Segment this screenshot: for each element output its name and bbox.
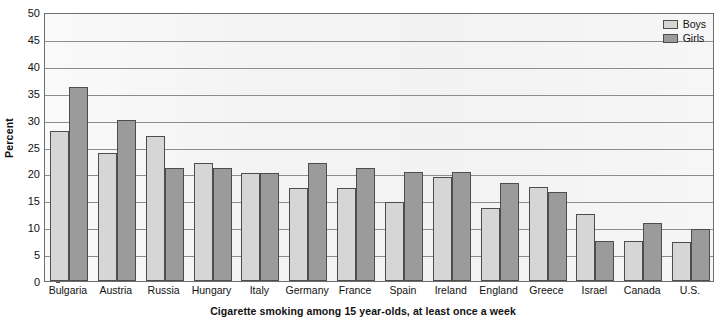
legend-swatch-girls-icon xyxy=(663,34,678,43)
x-axis-tick-germany: Germany xyxy=(283,284,331,297)
legend-label-girls: Girls xyxy=(683,32,705,44)
y-axis-tick-5: 5 xyxy=(16,250,40,261)
plot-area: Boys Girls xyxy=(44,13,714,282)
y-axis-tick-50: 50 xyxy=(16,8,40,19)
bar-england-boys xyxy=(481,208,500,281)
y-axis-tick-25: 25 xyxy=(16,142,40,153)
bar-france-girls xyxy=(356,168,375,281)
bar-israel-boys xyxy=(576,214,595,281)
y-axis-tick-15: 15 xyxy=(16,196,40,207)
x-axis-tick-russia: Russia xyxy=(140,284,188,297)
bar-canada-boys xyxy=(624,241,643,281)
bar-greece-girls xyxy=(548,192,567,281)
y-axis-tick-10: 10 xyxy=(16,223,40,234)
x-axis-tick-israel: Israel xyxy=(570,284,618,297)
bar-austria-boys xyxy=(98,153,117,281)
y-axis-title: Percent xyxy=(2,118,16,158)
bar-ireland-girls xyxy=(452,172,471,281)
bar-bulgaria-girls xyxy=(69,87,88,281)
legend-item-boys: Boys xyxy=(663,18,706,30)
bar-hungary-boys xyxy=(194,163,213,281)
bar-spain-girls xyxy=(404,172,423,281)
legend-swatch-boys-icon xyxy=(663,20,678,29)
chart-caption: Cigarette smoking among 15 year-olds, at… xyxy=(0,305,726,317)
bar-israel-girls xyxy=(595,241,614,281)
x-axis-tick-u-s-: U.S. xyxy=(666,284,714,297)
x-axis-tick-england: England xyxy=(475,284,523,297)
bar-germany-girls xyxy=(308,163,327,281)
legend-label-boys: Boys xyxy=(683,18,706,30)
y-axis-tick-labels: 50454035302520151050 xyxy=(16,0,40,326)
y-axis-tick-35: 35 xyxy=(16,88,40,99)
bar-hungary-girls xyxy=(213,168,232,281)
y-axis-tick-0: 0 xyxy=(16,277,40,288)
y-axis-tick-mark xyxy=(56,282,60,283)
x-axis-tick-spain: Spain xyxy=(379,284,427,297)
y-axis-tick-45: 45 xyxy=(16,34,40,45)
x-axis-tick-italy: Italy xyxy=(235,284,283,297)
bar-england-girls xyxy=(500,183,519,281)
bar-france-boys xyxy=(337,188,356,281)
bar-russia-boys xyxy=(146,136,165,281)
bar-spain-boys xyxy=(385,202,404,281)
x-axis-tick-labels: BulgariaAustriaRussiaHungaryItalyGermany… xyxy=(44,284,714,300)
y-axis-tick-40: 40 xyxy=(16,61,40,72)
x-axis-tick-canada: Canada xyxy=(618,284,666,297)
bar-italy-girls xyxy=(260,173,279,281)
x-axis-tick-bulgaria: Bulgaria xyxy=(44,284,92,297)
bar-canada-girls xyxy=(643,223,662,281)
bar-u-s--girls xyxy=(691,229,710,281)
x-axis-tick-greece: Greece xyxy=(523,284,571,297)
bar-ireland-boys xyxy=(433,177,452,281)
bar-russia-girls xyxy=(165,168,184,281)
y-axis-tick-30: 30 xyxy=(16,115,40,126)
bar-italy-boys xyxy=(241,173,260,281)
bar-chart-figure: Percent 50454035302520151050 Boys Girls … xyxy=(0,0,726,326)
x-axis-tick-hungary: Hungary xyxy=(188,284,236,297)
bar-austria-girls xyxy=(117,120,136,281)
bar-bulgaria-boys xyxy=(50,131,69,281)
y-axis-tick-20: 20 xyxy=(16,169,40,180)
legend-item-girls: Girls xyxy=(663,32,706,44)
bar-germany-boys xyxy=(289,188,308,281)
bar-series-container xyxy=(45,14,713,281)
legend: Boys Girls xyxy=(663,18,706,46)
bar-greece-boys xyxy=(529,187,548,281)
x-axis-tick-austria: Austria xyxy=(92,284,140,297)
x-axis-tick-ireland: Ireland xyxy=(427,284,475,297)
x-axis-tick-france: France xyxy=(331,284,379,297)
bar-u-s--boys xyxy=(672,242,691,281)
